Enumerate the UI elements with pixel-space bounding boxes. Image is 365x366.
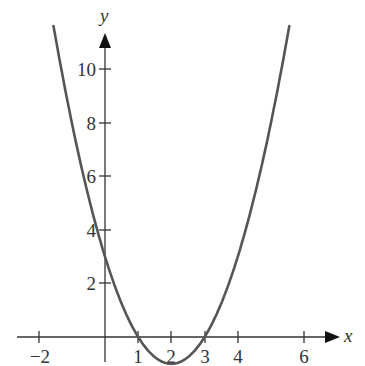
y-axis-arrow-icon [99, 33, 111, 48]
x-axis-label: x [343, 325, 353, 346]
y-tick-label: 2 [87, 273, 97, 294]
x-axis-arrow-icon [325, 331, 340, 343]
x-tick-label: −2 [30, 346, 50, 366]
y-tick-label: 6 [87, 166, 97, 187]
y-tick-label: 10 [77, 59, 96, 80]
x-tick-label: 4 [233, 346, 243, 366]
y-tick-label: 8 [87, 113, 97, 134]
x-tick-label: 3 [200, 346, 210, 366]
x-tick-label: 6 [299, 346, 309, 366]
x-tick-label: 1 [133, 346, 143, 366]
y-axis-label: y [98, 5, 109, 26]
chart: x y −2 1 2 3 4 6 2 4 6 8 10 [0, 0, 365, 366]
